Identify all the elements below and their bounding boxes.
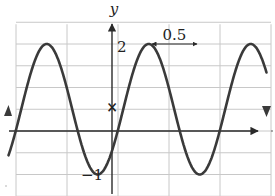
curve-left-arrow-icon <box>4 105 12 116</box>
x-axis-label-fragment <box>271 130 273 132</box>
y-tick-label-2: 2 <box>117 38 127 56</box>
curve-right-arrow-icon <box>262 106 271 117</box>
sinusoid-graph: 0.5 × 2 −1 y <box>0 0 275 196</box>
corner-dot <box>5 185 6 186</box>
y-axis-label: y <box>109 0 119 18</box>
period-label: 0.5 <box>163 26 187 44</box>
y-tick-label-minus-1: −1 <box>81 166 103 184</box>
y-intercept-marker: × <box>106 99 118 115</box>
